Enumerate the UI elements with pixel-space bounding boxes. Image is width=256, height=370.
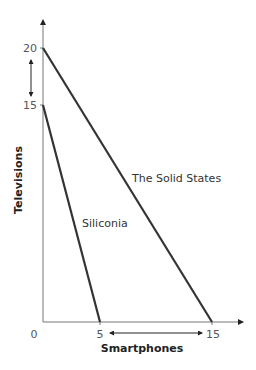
label-solid-states: The Solid States (131, 172, 221, 185)
origin-label: 0 (31, 328, 38, 341)
y-tick-15: 15 (23, 99, 37, 112)
y-axis-label: Televisions (12, 146, 25, 214)
label-siliconia: Siliconia (82, 217, 128, 230)
line-solid-states (43, 48, 212, 322)
x-axis-label: Smartphones (101, 342, 184, 355)
x-tick-15: 15 (206, 328, 220, 341)
x-tick-5: 5 (97, 328, 104, 341)
ppf-chart: 20 15 0 5 15 The Solid States Siliconia … (0, 0, 256, 370)
line-siliconia (43, 105, 100, 322)
y-tick-20: 20 (23, 42, 37, 55)
